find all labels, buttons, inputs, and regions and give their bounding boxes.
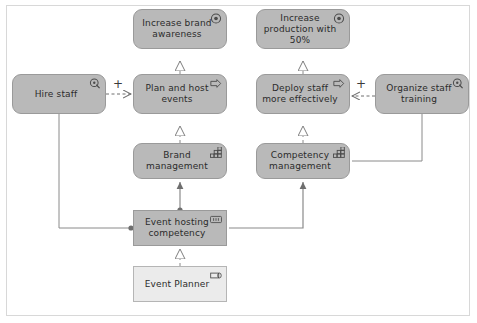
node-brand-management[interactable]: Brand management [133, 143, 227, 179]
course-of-action-target-arrow-icon [89, 78, 101, 89]
edge-association-hirestaff-to-eventhosting [59, 114, 131, 228]
node-hire-staff[interactable]: Hire staff [12, 74, 106, 114]
node-increase-production-with-50[interactable]: Increase production with 50% [256, 9, 350, 49]
node-competency-management[interactable]: Competency management [256, 143, 350, 179]
node-deploy-staff-more-effectively[interactable]: Deploy staff more effectively [256, 74, 350, 114]
node-organize-staff-training[interactable]: Organize staff training [375, 74, 469, 114]
node-label: Deploy staff more effectively [262, 83, 338, 105]
node-label: Event Planner [139, 279, 215, 290]
node-label: Increase production with 50% [262, 13, 338, 46]
edge-association-training-to-competencymgmt [352, 114, 422, 161]
node-label: Brand management [139, 150, 215, 172]
node-event-hosting-competency[interactable]: Event hosting competency [133, 210, 227, 246]
influence-label-plus-right: + [356, 78, 366, 90]
edge-assignment-eventhosting-to-competencymgmt [229, 182, 303, 228]
node-label: Competency management [262, 150, 338, 172]
node-label: Increase brand awareness [139, 18, 215, 40]
node-event-planner[interactable]: Event Planner [133, 266, 227, 302]
node-label: Organize staff training [381, 83, 457, 105]
diagram-canvas: Increase brand awareness Increase produc… [0, 0, 477, 323]
connector-layer [0, 0, 477, 323]
node-label: Hire staff [18, 89, 94, 100]
node-increase-brand-awareness[interactable]: Increase brand awareness [133, 9, 227, 49]
node-plan-and-host-events[interactable]: Plan and host events [133, 74, 227, 114]
influence-label-plus-left: + [113, 78, 123, 90]
node-label: Plan and host events [139, 83, 215, 105]
node-label: Event hosting competency [139, 217, 215, 239]
